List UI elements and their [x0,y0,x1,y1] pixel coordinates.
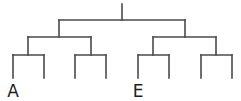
leaf-label-a: A [7,83,19,100]
dendrogram-tree [0,0,241,101]
leaf-label-e: E [133,83,144,100]
